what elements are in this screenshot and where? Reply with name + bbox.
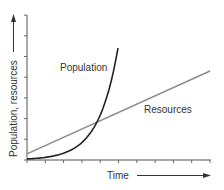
x-axis <box>27 160 211 163</box>
population-label: Population <box>60 62 107 73</box>
y-axis-title: Population, resources <box>8 60 19 157</box>
y-axis <box>24 15 27 160</box>
chart: Population Resources Time Population, re… <box>0 0 224 190</box>
resources-label: Resources <box>144 104 192 115</box>
x-axis-title: Time <box>107 170 129 181</box>
